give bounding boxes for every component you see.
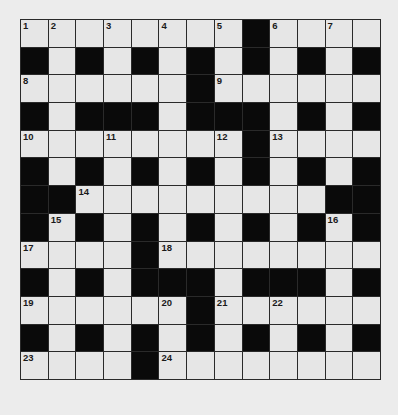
crossword-cell[interactable]	[326, 325, 353, 352]
crossword-cell[interactable]: 3	[104, 20, 131, 47]
crossword-cell[interactable]	[326, 352, 353, 379]
crossword-cell[interactable]	[49, 158, 76, 185]
crossword-cell[interactable]: 24	[159, 352, 186, 379]
crossword-cell[interactable]: 10	[21, 131, 48, 158]
crossword-cell[interactable]: 12	[215, 131, 242, 158]
crossword-cell[interactable]	[132, 186, 159, 213]
crossword-cell[interactable]: 17	[21, 242, 48, 269]
crossword-cell[interactable]	[159, 158, 186, 185]
crossword-cell[interactable]	[49, 48, 76, 75]
crossword-cell[interactable]	[49, 242, 76, 269]
crossword-cell[interactable]	[159, 48, 186, 75]
crossword-cell[interactable]	[159, 103, 186, 130]
crossword-cell[interactable]: 23	[21, 352, 48, 379]
crossword-cell[interactable]	[104, 75, 131, 102]
crossword-cell[interactable]	[76, 242, 103, 269]
crossword-cell[interactable]	[270, 186, 297, 213]
crossword-cell[interactable]: 18	[159, 242, 186, 269]
crossword-cell[interactable]	[298, 75, 325, 102]
crossword-cell[interactable]	[270, 242, 297, 269]
crossword-cell[interactable]	[104, 297, 131, 324]
crossword-cell[interactable]: 1	[21, 20, 48, 47]
crossword-cell[interactable]	[215, 214, 242, 241]
crossword-cell[interactable]	[215, 242, 242, 269]
crossword-cell[interactable]	[159, 131, 186, 158]
crossword-cell[interactable]	[326, 269, 353, 296]
crossword-cell[interactable]	[104, 186, 131, 213]
crossword-cell[interactable]	[132, 131, 159, 158]
crossword-cell[interactable]	[270, 48, 297, 75]
crossword-cell[interactable]: 8	[21, 75, 48, 102]
crossword-cell[interactable]	[187, 20, 214, 47]
crossword-cell[interactable]	[298, 297, 325, 324]
crossword-cell[interactable]	[270, 214, 297, 241]
crossword-cell[interactable]	[104, 48, 131, 75]
crossword-cell[interactable]	[49, 269, 76, 296]
crossword-cell[interactable]: 4	[159, 20, 186, 47]
crossword-cell[interactable]	[243, 297, 270, 324]
crossword-cell[interactable]	[76, 352, 103, 379]
crossword-cell[interactable]	[353, 75, 380, 102]
crossword-cell[interactable]	[159, 75, 186, 102]
crossword-cell[interactable]	[215, 325, 242, 352]
crossword-cell[interactable]: 20	[159, 297, 186, 324]
crossword-cell[interactable]	[353, 20, 380, 47]
crossword-cell[interactable]	[326, 158, 353, 185]
crossword-cell[interactable]	[298, 242, 325, 269]
crossword-cell[interactable]	[104, 325, 131, 352]
crossword-cell[interactable]	[353, 242, 380, 269]
crossword-cell[interactable]	[76, 297, 103, 324]
crossword-cell[interactable]	[104, 269, 131, 296]
crossword-cell[interactable]	[215, 352, 242, 379]
crossword-cell[interactable]	[298, 20, 325, 47]
crossword-cell[interactable]: 7	[326, 20, 353, 47]
crossword-cell[interactable]	[49, 75, 76, 102]
crossword-cell[interactable]	[49, 325, 76, 352]
crossword-cell[interactable]	[270, 325, 297, 352]
crossword-cell[interactable]: 14	[76, 186, 103, 213]
crossword-cell[interactable]	[270, 75, 297, 102]
crossword-cell[interactable]	[49, 352, 76, 379]
crossword-cell[interactable]	[104, 242, 131, 269]
crossword-cell[interactable]	[76, 131, 103, 158]
crossword-cell[interactable]	[132, 297, 159, 324]
crossword-cell[interactable]: 22	[270, 297, 297, 324]
crossword-cell[interactable]	[132, 20, 159, 47]
crossword-cell[interactable]	[243, 352, 270, 379]
crossword-cell[interactable]	[243, 242, 270, 269]
crossword-cell[interactable]: 19	[21, 297, 48, 324]
crossword-cell[interactable]	[353, 131, 380, 158]
crossword-cell[interactable]	[270, 158, 297, 185]
crossword-cell[interactable]	[49, 297, 76, 324]
crossword-cell[interactable]	[326, 242, 353, 269]
crossword-cell[interactable]	[187, 352, 214, 379]
crossword-cell[interactable]	[187, 242, 214, 269]
crossword-cell[interactable]	[326, 75, 353, 102]
crossword-cell[interactable]	[132, 75, 159, 102]
crossword-cell[interactable]: 13	[270, 131, 297, 158]
crossword-cell[interactable]	[353, 352, 380, 379]
crossword-cell[interactable]: 21	[215, 297, 242, 324]
crossword-cell[interactable]	[215, 158, 242, 185]
crossword-cell[interactable]	[326, 48, 353, 75]
crossword-cell[interactable]	[353, 297, 380, 324]
crossword-cell[interactable]	[326, 103, 353, 130]
crossword-cell[interactable]	[215, 48, 242, 75]
crossword-cell[interactable]	[215, 269, 242, 296]
crossword-cell[interactable]	[49, 131, 76, 158]
crossword-cell[interactable]	[298, 352, 325, 379]
crossword-cell[interactable]	[243, 186, 270, 213]
crossword-cell[interactable]	[76, 20, 103, 47]
crossword-cell[interactable]	[187, 186, 214, 213]
crossword-cell[interactable]	[270, 352, 297, 379]
crossword-cell[interactable]	[104, 352, 131, 379]
crossword-cell[interactable]: 2	[49, 20, 76, 47]
crossword-cell[interactable]	[159, 186, 186, 213]
crossword-cell[interactable]	[326, 131, 353, 158]
crossword-cell[interactable]	[215, 186, 242, 213]
crossword-cell[interactable]: 6	[270, 20, 297, 47]
crossword-cell[interactable]: 5	[215, 20, 242, 47]
crossword-cell[interactable]	[187, 131, 214, 158]
crossword-cell[interactable]	[49, 103, 76, 130]
crossword-cell[interactable]: 15	[49, 214, 76, 241]
